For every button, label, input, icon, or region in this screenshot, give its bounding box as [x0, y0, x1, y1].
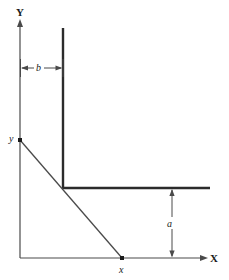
- dimension-b: b: [21, 59, 64, 77]
- dimension-a-label: a: [167, 218, 172, 229]
- x-axis-arrowhead: [200, 255, 208, 261]
- y-intercept-point-marker: [18, 138, 22, 142]
- figure-container: Y X y x: [0, 0, 229, 280]
- dimension-b-left-arrowhead: [21, 65, 28, 70]
- dimension-b-right-arrowhead: [56, 65, 63, 70]
- dimension-a-lower-arrowhead: [169, 251, 174, 258]
- x-intercept-label: x: [118, 264, 124, 275]
- x-intercept-point-marker: [120, 256, 124, 260]
- dimension-a: a: [167, 189, 175, 258]
- dimension-a-upper-arrowhead: [169, 189, 174, 196]
- x-axis-label: X: [210, 252, 218, 264]
- y-intercept-label: y: [8, 133, 14, 144]
- y-axis-label: Y: [16, 6, 24, 18]
- dimension-b-label: b: [36, 62, 41, 73]
- y-axis-arrowhead: [17, 19, 23, 27]
- economics-diagram: Y X y x: [0, 0, 229, 280]
- budget-line: [20, 140, 122, 258]
